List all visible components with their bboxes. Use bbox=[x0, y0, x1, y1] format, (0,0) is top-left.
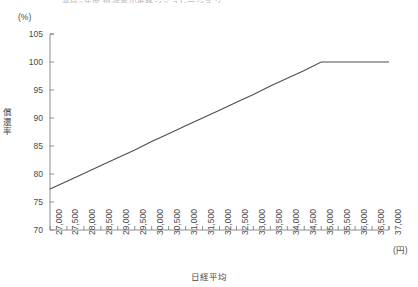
x-axis-title: 日経平均 bbox=[0, 270, 418, 282]
y-tick-label: 95 bbox=[17, 85, 43, 95]
x-tick-label: 32,000 bbox=[223, 209, 233, 235]
data-series bbox=[50, 62, 389, 189]
y-tick-label: 70 bbox=[17, 225, 43, 235]
y-tick-label: 85 bbox=[17, 141, 43, 151]
x-tick-label: 29,500 bbox=[138, 209, 148, 235]
x-tick-label: 35,500 bbox=[342, 209, 352, 235]
axes bbox=[50, 34, 389, 230]
y-axis-title-text: 償還率 bbox=[1, 108, 13, 137]
y-axis-unit: (%) bbox=[18, 12, 31, 22]
x-tick-label: 33,000 bbox=[257, 209, 267, 235]
tick-marks bbox=[50, 34, 389, 230]
x-tick-label: 35,000 bbox=[325, 209, 335, 235]
plot-area bbox=[0, 0, 418, 287]
y-axis-title: 償還率 bbox=[1, 108, 13, 137]
y-tick-label: 90 bbox=[17, 113, 43, 123]
x-tick-label: 28,000 bbox=[87, 209, 97, 235]
x-tick-label: 27,500 bbox=[70, 209, 80, 235]
chart-figure: 平成○年度 償還率の推移シミュレーション (%) 償還率 (円) 日経平均 70… bbox=[0, 0, 418, 287]
x-tick-label: 31,500 bbox=[206, 209, 216, 235]
x-tick-label: 34,000 bbox=[291, 209, 301, 235]
x-tick-label: 30,500 bbox=[172, 209, 182, 235]
cut-off-title: 平成○年度 償還率の推移シミュレーション bbox=[62, 0, 221, 3]
x-tick-label: 36,500 bbox=[376, 209, 386, 235]
x-axis-unit: (円) bbox=[393, 243, 408, 255]
x-tick-label: 30,000 bbox=[155, 209, 165, 235]
y-tick-label: 80 bbox=[17, 169, 43, 179]
x-tick-label: 37,000 bbox=[393, 209, 403, 235]
x-tick-label: 28,500 bbox=[104, 209, 114, 235]
y-tick-label: 105 bbox=[17, 29, 43, 39]
x-tick-label: 36,000 bbox=[359, 209, 369, 235]
x-tick-label: 34,500 bbox=[308, 209, 318, 235]
y-tick-label: 75 bbox=[17, 197, 43, 207]
x-tick-label: 31,000 bbox=[189, 209, 199, 235]
y-tick-label: 100 bbox=[17, 57, 43, 67]
x-tick-label: 27,000 bbox=[54, 209, 64, 235]
x-tick-label: 29,000 bbox=[121, 209, 131, 235]
x-tick-label: 33,500 bbox=[274, 209, 284, 235]
x-tick-label: 32,500 bbox=[240, 209, 250, 235]
